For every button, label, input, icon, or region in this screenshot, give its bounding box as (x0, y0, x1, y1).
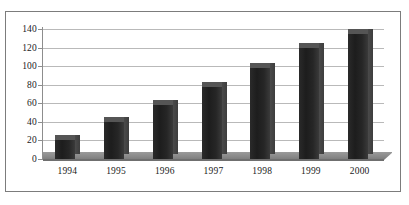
gridline (43, 29, 384, 30)
bar-front-face (250, 68, 270, 159)
y-tick-mark (38, 140, 43, 141)
bar-side-face (75, 135, 80, 154)
bar-side-face (173, 100, 178, 154)
y-axis-tick-label: 80 (3, 80, 37, 90)
y-tick-mark (38, 48, 43, 49)
x-axis-tick-label: 1999 (291, 166, 331, 177)
bar-side-face (124, 117, 129, 154)
bar-1996 (153, 100, 178, 159)
y-tick-mark (38, 159, 43, 160)
y-axis-tick-label: 140 (3, 24, 37, 34)
x-axis-tick-label: 1995 (96, 166, 136, 177)
y-tick-mark (38, 103, 43, 104)
y-tick-mark (38, 122, 43, 123)
x-axis-labels: 1994199519961997199819992000 (43, 166, 392, 180)
gridline (43, 48, 384, 49)
bar-front-face (153, 105, 173, 159)
chart-figure: 020406080100120140 199419951996199719981… (0, 0, 409, 205)
y-axis-tick-label: 120 (3, 43, 37, 53)
x-axis-tick-label: 2000 (340, 166, 380, 177)
x-axis-tick-label: 1998 (242, 166, 282, 177)
bar-1999 (299, 43, 324, 159)
bar-side-face (270, 63, 275, 154)
bar-front-face (55, 140, 75, 159)
bar-front-face (202, 87, 222, 159)
x-axis-tick-label: 1997 (194, 166, 234, 177)
y-axis-tick-label: 20 (3, 135, 37, 145)
bar-side-face (319, 43, 324, 154)
y-tick-mark (38, 66, 43, 67)
y-axis-labels: 020406080100120140 (0, 0, 37, 205)
y-tick-mark (38, 85, 43, 86)
gridline (43, 66, 384, 67)
bar-front-face (299, 48, 319, 159)
x-axis-tick-label: 1994 (47, 166, 87, 177)
bar-1994 (55, 135, 80, 159)
bar-side-face (222, 82, 227, 154)
bar-2000 (348, 29, 373, 159)
x-axis-tick-label: 1996 (145, 166, 185, 177)
y-axis-tick-label: 100 (3, 61, 37, 71)
chart-floor-front (43, 159, 384, 161)
bar-side-face (368, 29, 373, 154)
bar-front-face (104, 122, 124, 159)
bar-1995 (104, 117, 129, 159)
y-tick-mark (38, 29, 43, 30)
y-axis-tick-label: 40 (3, 117, 37, 127)
bar-1997 (202, 82, 227, 159)
bar-1998 (250, 63, 275, 159)
y-axis-tick-label: 0 (3, 154, 37, 164)
bar-front-face (348, 34, 368, 159)
y-axis-tick-label: 60 (3, 98, 37, 108)
